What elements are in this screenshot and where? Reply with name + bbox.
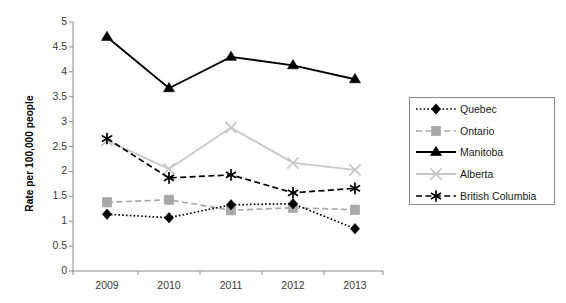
data-point-marker-diamond [431,104,440,114]
data-point-marker-asterisk [288,187,298,199]
legend-label: British Columbia [460,190,536,202]
data-point-marker-square [431,126,440,135]
legend-item-ontario[interactable]: Ontario [410,120,554,142]
series-quebec [102,199,359,234]
legend-swatch-triangle-icon [414,142,458,162]
data-point-marker-x [225,122,236,133]
data-point-marker-diamond [102,209,111,219]
series-line [107,128,355,170]
chart-legend: QuebecOntarioManitobaAlbertaBritish Colu… [409,97,555,205]
legend-item-quebec[interactable]: Quebec [410,99,554,121]
legend-swatch-diamond-icon [414,99,458,119]
data-point-marker-diamond [164,213,173,223]
data-point-marker-square [102,198,111,207]
line-chart-figure: Rate per 100,000 people 00.511.522.533.5… [0,0,566,303]
data-point-marker-square [350,205,359,214]
legend-swatch-x-icon [414,164,458,184]
series-alberta [101,122,360,176]
legend-label: Alberta [460,168,493,180]
legend-swatch-asterisk-icon [414,186,458,206]
legend-label: Ontario [460,125,494,137]
legend-label: Manitoba [460,146,503,158]
legend-swatch-square-icon [414,121,458,141]
legend-item-british-columbia[interactable]: British Columbia [410,185,554,207]
series-manitoba [102,31,361,91]
data-point-marker-triangle [226,51,237,60]
data-point-marker-diamond [350,223,359,233]
legend-label: Quebec [460,103,497,115]
series-line [107,37,355,88]
legend-item-manitoba[interactable]: Manitoba [410,142,554,164]
data-point-marker-square [164,195,173,204]
legend-item-alberta[interactable]: Alberta [410,163,554,185]
data-point-marker-triangle [102,31,113,40]
data-point-marker-triangle [431,147,442,156]
